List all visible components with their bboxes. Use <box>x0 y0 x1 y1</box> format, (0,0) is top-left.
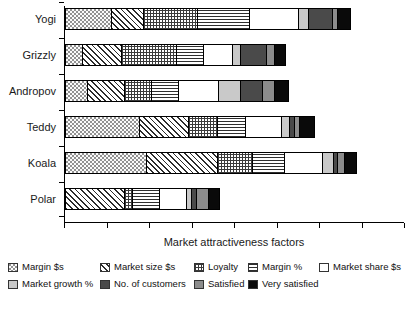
bar-segment-market-share-s <box>204 45 233 65</box>
legend-swatch-market-size-s-icon <box>100 263 110 272</box>
bar-segment-margin <box>177 45 204 65</box>
bar-segment-satisfied <box>263 81 275 101</box>
bar-segment-margin-s <box>66 9 112 29</box>
legend-label-margin: Margin % <box>262 262 302 272</box>
y-axis-tick <box>59 182 64 183</box>
legend-label-very-satisfied: Very satisfied <box>262 279 319 289</box>
bar-segment-market-share-s <box>246 117 281 137</box>
plot-area: YogiGrizzlyAndropovTeddyKoalaPolar <box>0 0 408 240</box>
bar-segment-loyalty <box>122 45 178 65</box>
bar-grizzly <box>65 44 286 66</box>
legend-item-market-growth[interactable]: Market growth % <box>8 279 93 289</box>
bar-segment-market-growth <box>233 45 241 65</box>
legend-item-very-satisfied[interactable]: Very satisfied <box>248 279 319 289</box>
bar-segment-margin-s <box>66 81 88 101</box>
bar-segment-market-growth <box>323 153 335 173</box>
bar-segment-very-satisfied <box>338 9 350 29</box>
legend-item-margin[interactable]: Margin % <box>248 262 302 272</box>
bar-segment-satisfied <box>338 153 345 173</box>
bar-segment-loyalty <box>189 117 218 137</box>
x-axis-tick <box>149 223 150 228</box>
bar-segment-margin <box>253 153 285 173</box>
x-axis-tick <box>64 223 65 228</box>
bar-segment-satisfied <box>267 45 275 65</box>
x-axis-tick <box>362 223 363 228</box>
x-axis-tick <box>192 223 193 228</box>
y-axis-tick <box>59 146 64 147</box>
bar-segment-market-size-s <box>88 81 125 101</box>
bar-series-container <box>65 0 405 222</box>
bar-segment-market-size-s <box>147 153 218 173</box>
legend-label-satisfied: Satisfied <box>208 279 244 289</box>
legend-label-market-share-s: Market share $s <box>333 262 401 272</box>
bar-segment-no-of-customers <box>241 81 263 101</box>
bar-segment-market-growth <box>219 81 241 101</box>
y-axis-tick <box>59 38 64 39</box>
bar-segment-market-share-s <box>160 189 187 209</box>
bar-segment-loyalty <box>144 9 198 29</box>
chart-legend: Margin $sMarket size $sLoyaltyMargin %Ma… <box>8 262 404 302</box>
legend-swatch-margin-s-icon <box>8 263 18 272</box>
legend-item-satisfied[interactable]: Satisfied <box>194 279 244 289</box>
bar-segment-loyalty <box>218 153 253 173</box>
x-axis-tick <box>234 223 235 228</box>
bar-segment-margin-s <box>66 45 83 65</box>
bar-segment-margin <box>198 9 250 29</box>
bar-segment-market-size-s <box>140 117 189 137</box>
y-axis-label-teddy: Teddy <box>0 122 56 133</box>
legend-item-margin-s[interactable]: Margin $s <box>8 262 64 272</box>
legend-label-no-of-customers: No. of customers <box>114 279 186 289</box>
legend-label-margin-s: Margin $s <box>22 262 64 272</box>
legend-label-loyalty: Loyalty <box>208 262 238 272</box>
bar-segment-no-of-customers <box>309 9 333 29</box>
bar-segment-loyalty <box>125 189 133 209</box>
y-axis-label-grizzly: Grizzly <box>0 50 56 61</box>
y-axis-tick <box>59 216 64 217</box>
y-axis-label-yogi: Yogi <box>0 14 56 25</box>
y-axis-category-labels: YogiGrizzlyAndropovTeddyKoalaPolar <box>0 0 62 222</box>
legend-swatch-no-of-customers-icon <box>100 280 110 289</box>
bar-segment-market-share-s <box>250 9 299 29</box>
bar-segment-loyalty <box>125 81 152 101</box>
legend-swatch-margin-icon <box>248 263 258 272</box>
legend-swatch-loyalty-icon <box>194 263 204 272</box>
y-axis-label-polar: Polar <box>0 194 56 205</box>
bar-segment-satisfied <box>197 189 209 209</box>
x-axis-title: Market attractiveness factors <box>64 236 404 248</box>
y-axis-label-andropov: Andropov <box>0 86 56 97</box>
legend-swatch-very-satisfied-icon <box>248 280 258 289</box>
x-axis-tick <box>107 223 108 228</box>
bar-segment-margin <box>152 81 179 101</box>
legend-item-market-size-s[interactable]: Market size $s <box>100 262 175 272</box>
bar-koala <box>65 152 357 174</box>
bar-segment-margin <box>133 189 160 209</box>
legend-row-2: Market growth %No. of customersSatisfied… <box>8 279 404 295</box>
y-axis-label-koala: Koala <box>0 158 56 169</box>
bar-segment-market-share-s <box>179 81 219 101</box>
bar-segment-margin <box>218 117 247 137</box>
y-axis-tick <box>59 2 64 3</box>
bar-segment-very-satisfied <box>345 153 357 173</box>
legend-item-loyalty[interactable]: Loyalty <box>194 262 238 272</box>
y-axis-tick <box>59 110 64 111</box>
bar-segment-market-size-s <box>83 45 122 65</box>
bar-segment-very-satisfied <box>275 45 285 65</box>
legend-row-1: Margin $sMarket size $sLoyaltyMargin %Ma… <box>8 262 404 278</box>
bar-segment-market-size-s <box>66 189 125 209</box>
bar-yogi <box>65 8 351 30</box>
bar-segment-margin-s <box>66 117 140 137</box>
bar-polar <box>65 188 220 210</box>
x-axis-tick <box>277 223 278 228</box>
legend-item-no-of-customers[interactable]: No. of customers <box>100 279 186 289</box>
bar-segment-no-of-customers <box>241 45 266 65</box>
bar-segment-market-share-s <box>285 153 322 173</box>
legend-label-market-growth: Market growth % <box>22 279 93 289</box>
bar-teddy <box>65 116 315 138</box>
bar-segment-very-satisfied <box>300 117 313 137</box>
legend-swatch-market-growth-icon <box>8 280 18 289</box>
bar-segment-margin-s <box>66 153 147 173</box>
legend-item-market-share-s[interactable]: Market share $s <box>319 262 401 272</box>
x-axis-tick <box>319 223 320 228</box>
bar-segment-very-satisfied <box>275 81 288 101</box>
legend-swatch-market-share-s-icon <box>319 263 329 272</box>
